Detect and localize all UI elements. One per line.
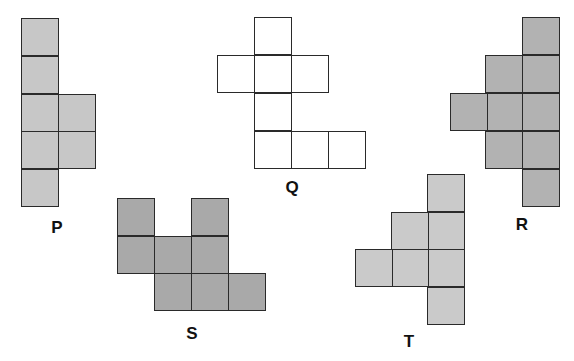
net-square bbox=[291, 55, 329, 93]
net-square bbox=[21, 56, 59, 94]
net-square bbox=[485, 93, 523, 131]
net-square bbox=[427, 249, 465, 287]
net-square bbox=[228, 273, 266, 311]
net-square bbox=[355, 249, 393, 287]
figure-canvas: P Q R S T bbox=[0, 0, 574, 361]
net-square bbox=[254, 17, 292, 55]
label-p: P bbox=[51, 219, 62, 236]
net-square bbox=[427, 174, 465, 212]
net-square bbox=[522, 93, 560, 131]
shape-t: T bbox=[0, 0, 574, 361]
label-q: Q bbox=[285, 179, 298, 196]
net-square bbox=[485, 55, 523, 93]
net-square bbox=[522, 17, 560, 55]
net-square bbox=[291, 131, 329, 169]
net-square bbox=[117, 236, 155, 274]
net-square bbox=[58, 94, 96, 132]
net-square bbox=[21, 94, 59, 132]
net-square bbox=[522, 55, 560, 93]
net-square bbox=[58, 131, 96, 169]
shape-s: S bbox=[0, 0, 574, 361]
net-square bbox=[328, 131, 366, 169]
net-square bbox=[217, 55, 255, 93]
net-square bbox=[191, 236, 229, 274]
net-square bbox=[522, 131, 560, 169]
net-square bbox=[254, 93, 292, 131]
shape-q: Q bbox=[0, 0, 574, 361]
label-r: R bbox=[516, 216, 528, 233]
net-square bbox=[117, 198, 155, 236]
label-t: T bbox=[404, 333, 414, 350]
net-square bbox=[450, 93, 488, 131]
net-square bbox=[154, 236, 192, 274]
net-square bbox=[427, 287, 465, 325]
net-square bbox=[522, 169, 560, 207]
net-square bbox=[154, 273, 192, 311]
net-square bbox=[254, 131, 292, 169]
shape-r: R bbox=[0, 0, 574, 361]
net-square bbox=[191, 198, 229, 236]
net-square bbox=[485, 131, 523, 169]
net-square bbox=[21, 18, 59, 56]
net-square bbox=[391, 212, 429, 250]
net-square bbox=[191, 273, 229, 311]
net-square bbox=[427, 212, 465, 250]
shape-p: P bbox=[0, 0, 574, 361]
net-square bbox=[21, 131, 59, 169]
net-square bbox=[21, 169, 59, 207]
net-square bbox=[254, 55, 292, 93]
label-s: S bbox=[186, 325, 197, 342]
net-square bbox=[391, 249, 429, 287]
